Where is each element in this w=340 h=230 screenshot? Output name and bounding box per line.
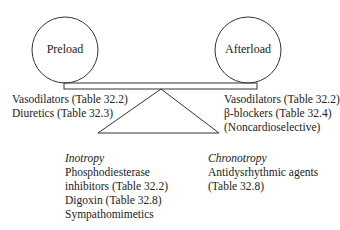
inotropy-item: inhibitors (Table 32.2) xyxy=(65,179,168,193)
chronotropy-block: Chronotropy Antidysrhythmic agents (Tabl… xyxy=(208,151,318,193)
afterload-label: Afterload xyxy=(215,42,281,57)
afterload-agent: (Noncardioselective) xyxy=(224,120,340,134)
preload-label: Preload xyxy=(32,42,98,57)
preload-agent: Vasodilators (Table 32.2) xyxy=(12,92,128,106)
preload-agents: Vasodilators (Table 32.2) Diuretics (Tab… xyxy=(12,92,128,120)
inotropy-item: Digoxin (Table 32.8) xyxy=(65,193,168,207)
inotropy-block: Inotropy Phosphodiesterase inhibitors (T… xyxy=(65,151,168,221)
balance-plank xyxy=(64,83,257,89)
chronotropy-item: (Table 32.8) xyxy=(208,179,318,193)
afterload-agents: Vasodilators (Table 32.2) β-blockers (Ta… xyxy=(224,92,340,134)
preload-agent: Diuretics (Table 32.3) xyxy=(12,106,128,120)
afterload-agent: β-blockers (Table 32.4) xyxy=(224,106,340,120)
inotropy-heading: Inotropy xyxy=(65,151,168,165)
inotropy-item: Sympathomimetics xyxy=(65,207,168,221)
chronotropy-item: Antidysrhythmic agents xyxy=(208,165,318,179)
inotropy-item: Phosphodiesterase xyxy=(65,165,168,179)
afterload-agent: Vasodilators (Table 32.2) xyxy=(224,92,340,106)
chronotropy-heading: Chronotropy xyxy=(208,151,318,165)
